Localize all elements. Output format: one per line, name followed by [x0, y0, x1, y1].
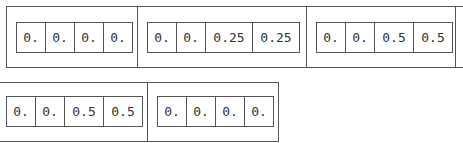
array-value: 0.5	[375, 23, 414, 52]
array-value: 0.	[17, 23, 46, 52]
array-value: 0.	[148, 23, 177, 52]
array-value: 0.	[216, 97, 245, 126]
output-row-1: 0. 0. 0. 0. 0. 0. 0.25 0.25 0. 0. 0.5 0.…	[6, 6, 463, 68]
array-value: 0.25	[253, 23, 299, 52]
array-value: 0.5	[104, 97, 142, 126]
array-value: 0.5	[414, 23, 452, 52]
array-2-1: 0. 0. 0.5 0.5	[6, 96, 143, 127]
array-value: 0.5	[65, 97, 104, 126]
array-value: 0.	[245, 97, 273, 126]
array-value: 0.	[177, 23, 206, 52]
array-value: 0.	[75, 23, 104, 52]
array-value: 0.	[36, 97, 65, 126]
array-value: 0.	[7, 97, 36, 126]
array-1-1: 0. 0. 0. 0.	[16, 22, 133, 53]
array-1-2: 0. 0. 0.25 0.25	[147, 22, 300, 53]
array-value: 0.	[104, 23, 132, 52]
array-value: 0.	[46, 23, 75, 52]
array-value: 0.	[187, 97, 216, 126]
array-value: 0.	[158, 97, 187, 126]
output-row-2: 0. 0. 0.5 0.5 0. 0. 0. 0.	[0, 82, 279, 142]
array-2-2: 0. 0. 0. 0.	[157, 96, 274, 127]
array-value: 0.25	[206, 23, 253, 52]
array-value: 0.	[346, 23, 375, 52]
array-value: 0.	[317, 23, 346, 52]
array-1-3: 0. 0. 0.5 0.5	[316, 22, 453, 53]
